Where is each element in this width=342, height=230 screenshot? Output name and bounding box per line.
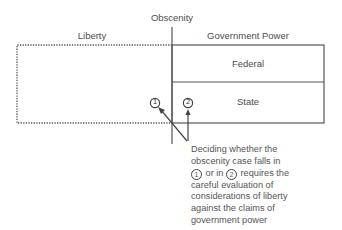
- caption-line-1: Deciding whether the: [191, 144, 289, 156]
- arrow-to-marker-1: [161, 110, 187, 141]
- caption-line-3: 1 or in 2 requires the: [191, 168, 289, 180]
- explanation-caption: Deciding whether the obscenity case fall…: [191, 144, 289, 227]
- marker-1-label: 1: [153, 97, 157, 106]
- inline-marker-1: 1: [191, 169, 202, 180]
- obscenity-label: Obscenity: [151, 12, 193, 23]
- arrowhead-2: [186, 109, 191, 115]
- liberty-label: Liberty: [78, 30, 107, 41]
- marker-2-label: 2: [186, 97, 190, 106]
- caption-line-4: careful evaluation of: [191, 180, 289, 192]
- diagram-lines: [0, 0, 342, 230]
- government-power-box: [172, 45, 324, 123]
- caption-line-6: against the claims of: [191, 203, 289, 215]
- caption-line-5: considerations of liberty: [191, 191, 289, 203]
- state-label: State: [237, 96, 259, 107]
- caption-line-7: government power: [191, 215, 289, 227]
- government-power-label: Government Power: [207, 30, 289, 41]
- inline-marker-2: 2: [226, 169, 237, 180]
- caption-line-3-post: requires the: [241, 168, 290, 178]
- caption-line-2: obscenity case falls in: [191, 156, 289, 168]
- federal-label: Federal: [232, 58, 264, 69]
- caption-line-3-mid: or in: [206, 168, 224, 178]
- liberty-dotted-border: [17, 45, 172, 123]
